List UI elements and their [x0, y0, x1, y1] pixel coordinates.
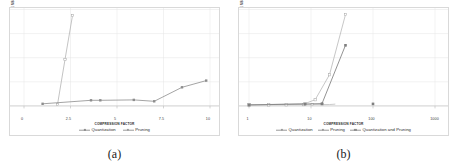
panel-a-xaxis-title: COMPRESSION FACTOR	[0, 122, 229, 126]
panel-a-xtick-3: 7.5	[157, 117, 167, 121]
panel-a-markers-quantization	[41, 79, 207, 105]
panel-b-xtick-1: 10	[304, 117, 315, 121]
panel-a-xtick-0: 0	[17, 117, 27, 121]
legend-line-marker-icon	[318, 128, 329, 132]
panel-b-caption: (b)	[229, 147, 458, 162]
panel-a: LOG AVERAGE MSE/BIT RATE 0.420 0.385 0.3…	[0, 0, 229, 163]
panel-a-hgrid	[10, 10, 219, 106]
panel-b-legend-item-pruning[interactable]: Pruning	[318, 127, 345, 132]
panel-a-legend: Quantization Pruning	[0, 127, 229, 132]
panel-b-markers-pruning	[248, 13, 347, 106]
panel-a-legend-item-quantization[interactable]: Quantization	[79, 127, 116, 132]
panel-a-caption: (a)	[0, 147, 229, 162]
panel-a-xtick-2: 5	[110, 117, 120, 121]
panel-b-xtick-0: 1	[242, 117, 253, 121]
panel-b-xtick-3: 1000	[428, 117, 441, 121]
panel-a-xtick-4: 10	[203, 117, 213, 121]
panel-a-legend-label-1: Pruning	[135, 127, 150, 132]
legend-line-marker-icon	[123, 128, 134, 132]
panel-b-plot-frame	[238, 7, 449, 136]
panel-a-legend-item-pruning[interactable]: Pruning	[123, 127, 150, 132]
legend-line-marker-icon	[350, 128, 361, 132]
panel-b: LOG AVERAGE MSE/BIT RATE 0.580 0.505 0.4…	[229, 0, 458, 163]
panel-a-series-quantization	[41, 79, 207, 105]
panel-b-legend-label-0: Quantization	[289, 127, 313, 132]
figure-container: LOG AVERAGE MSE/BIT RATE 0.420 0.385 0.3…	[0, 0, 458, 163]
panel-b-legend-label-1: Pruning	[330, 127, 345, 132]
panel-b-series-pruning	[248, 13, 347, 106]
panel-b-legend-label-2: Quantization and Pruning	[362, 127, 410, 132]
panel-b-legend-item-quantization[interactable]: Quantization	[276, 127, 313, 132]
panel-a-vgrid	[24, 8, 210, 106]
panel-b-hgrid	[239, 10, 448, 106]
panel-a-legend-label-0: Quantization	[92, 127, 116, 132]
panel-b-xaxis-title: COMPRESSION FACTOR	[229, 122, 458, 126]
legend-line-marker-icon	[276, 128, 287, 132]
panel-a-plot	[10, 8, 219, 135]
panel-b-legend: Quantization Pruning Quantization and Pr…	[229, 127, 458, 132]
panel-a-series-pruning	[56, 14, 73, 105]
panel-b-plot	[239, 8, 448, 135]
panel-b-legend-item-quantization-and-pruning[interactable]: Quantization and Pruning	[350, 127, 411, 132]
panel-b-xticks	[249, 106, 435, 109]
panel-b-vgrid	[249, 8, 435, 106]
legend-line-marker-icon	[79, 128, 90, 132]
panel-a-xtick-1: 2.5	[64, 117, 74, 121]
panel-a-xticks	[24, 106, 210, 109]
panel-b-xtick-2: 100	[366, 117, 377, 121]
